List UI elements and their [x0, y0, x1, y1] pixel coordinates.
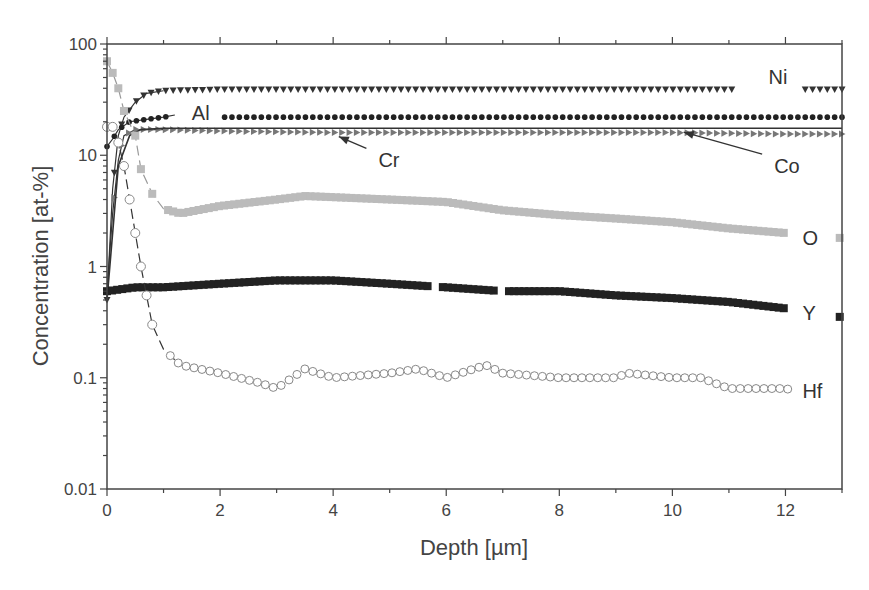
x-tick-label: 2 — [215, 501, 224, 520]
y-tick-label: 10 — [78, 146, 97, 165]
x-tick-label: 10 — [663, 501, 682, 520]
series-hf — [103, 122, 792, 393]
x-tick-label: 0 — [102, 501, 111, 520]
x-tick-label: 4 — [328, 501, 337, 520]
x-tick-label: 8 — [555, 501, 564, 520]
label-ni: Ni — [769, 66, 788, 88]
series-co — [107, 128, 842, 300]
x-tick-label: 6 — [441, 501, 450, 520]
co-line — [107, 128, 842, 300]
label-cr: Cr — [378, 149, 399, 171]
y-tick-label: 1 — [88, 258, 97, 277]
y-tick-label: 0.01 — [64, 480, 97, 499]
y-tick-label: 100 — [69, 35, 97, 54]
series-layer — [103, 57, 846, 393]
x-axis-title: Depth [µm] — [420, 535, 528, 560]
depth-profile-chart: 0246810120.010.1110100 NiAlCrCoOYHf Dept… — [0, 0, 869, 590]
series-o — [103, 57, 844, 242]
y-tick-label: 0.1 — [73, 369, 97, 388]
plot-frame — [107, 44, 842, 489]
series-y — [103, 276, 844, 320]
label-al: Al — [192, 102, 210, 124]
annotation-layer: NiAlCrCoOYHf — [192, 66, 823, 402]
label-y: Y — [802, 302, 815, 324]
x-tick-label: 12 — [776, 501, 795, 520]
label-o: O — [802, 227, 818, 249]
label-hf: Hf — [802, 380, 822, 402]
arrowhead-icon — [339, 137, 350, 145]
label-co: Co — [774, 155, 800, 177]
y-axis-title: Concentration [at-%] — [28, 166, 53, 367]
axes-layer: 0246810120.010.1110100 — [64, 35, 842, 520]
